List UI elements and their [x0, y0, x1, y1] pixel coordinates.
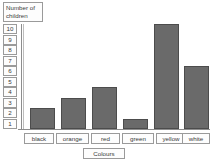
- y-tick-4: 4: [3, 87, 17, 97]
- bar-green: [123, 119, 148, 130]
- y-tick-8: 8: [3, 45, 17, 55]
- bar-black: [30, 108, 55, 129]
- y-tick-2: 2: [3, 108, 17, 118]
- y-axis-title: Number of children: [3, 2, 43, 22]
- bar-orange: [61, 98, 86, 130]
- plot-area: [24, 24, 210, 129]
- x-label-orange: orange: [56, 133, 89, 144]
- y-tick-1: 1: [3, 119, 17, 129]
- bar-yellow: [154, 24, 179, 129]
- x-label-black: black: [24, 133, 54, 144]
- y-tick-5: 5: [3, 77, 17, 87]
- x-label-green: green: [122, 133, 154, 144]
- x-label-white: white: [182, 133, 210, 144]
- y-axis-title-line-2: children: [6, 12, 40, 20]
- bar-red: [92, 87, 117, 129]
- y-tick-9: 9: [3, 35, 17, 45]
- y-tick-3: 3: [3, 98, 17, 108]
- bar-white: [184, 66, 209, 129]
- y-axis-line: [21, 24, 22, 129]
- y-tick-6: 6: [3, 66, 17, 76]
- x-axis-title: Colours: [83, 148, 125, 159]
- y-tick-7: 7: [3, 56, 17, 66]
- y-tick-10: 10: [3, 24, 17, 34]
- bar-chart: Number of children 10 9 8 7 6 5 4 3 2 1 …: [0, 0, 212, 160]
- x-axis-line: [18, 129, 210, 130]
- y-axis-title-line-1: Number of: [6, 4, 40, 12]
- x-label-red: red: [91, 133, 120, 144]
